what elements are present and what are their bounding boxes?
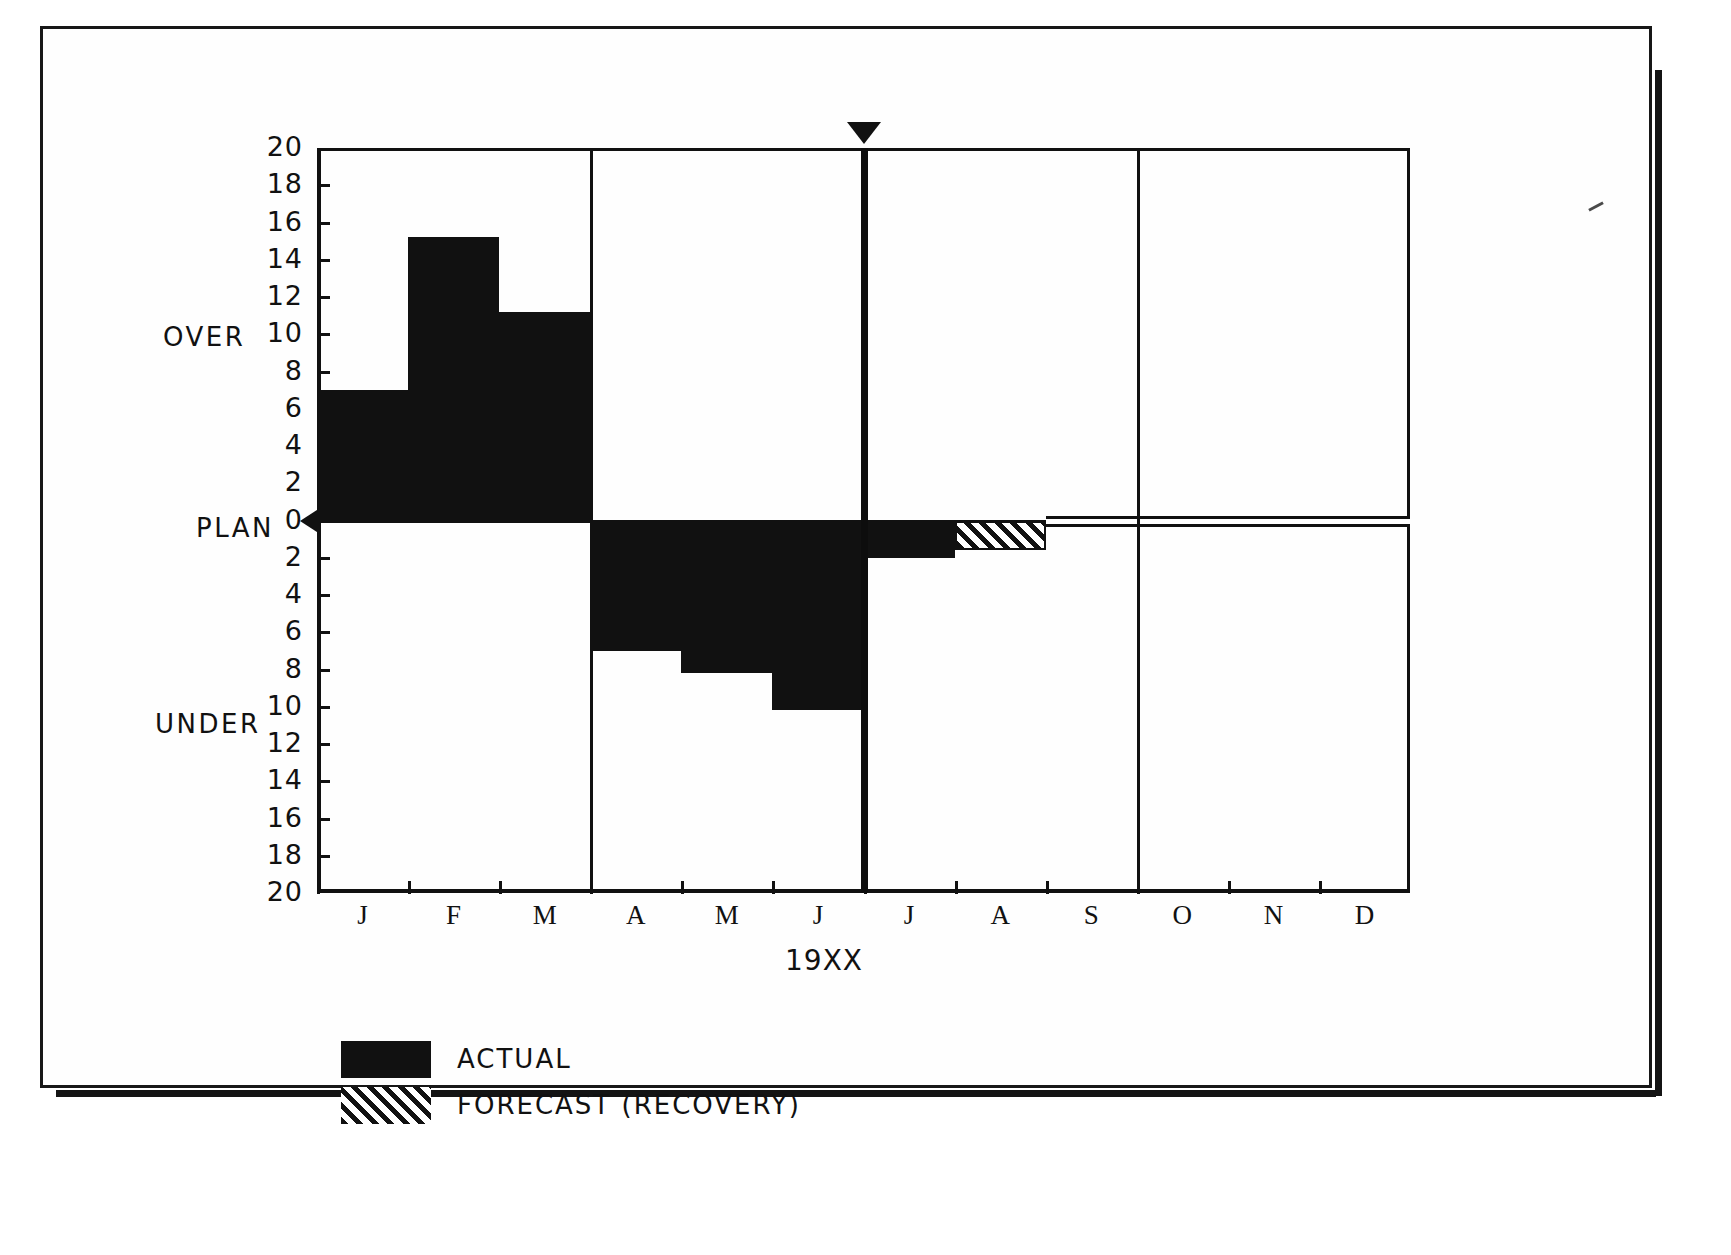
x-axis-category-label: S: [1061, 902, 1121, 929]
down-triangle-marker-icon: [847, 122, 881, 144]
x-axis-category-label: A: [606, 902, 666, 929]
sheet-edge-shadow-bottom: [56, 1090, 1656, 1097]
y-axis-tick: [317, 333, 330, 336]
x-axis-category-label: D: [1334, 902, 1394, 929]
bar-on-plan: [1228, 516, 1319, 527]
plan-pointer-icon: [300, 508, 320, 534]
x-axis-tick: [772, 881, 775, 894]
y-axis-tick: [317, 408, 330, 411]
y-axis-tick: [317, 780, 330, 783]
y-axis-tick-label: 14: [243, 245, 303, 272]
y-axis-tick-label: 16: [243, 804, 303, 831]
y-axis-tick-label: 18: [243, 841, 303, 868]
bar-actual: [590, 521, 681, 651]
x-axis-tick: [408, 881, 411, 894]
y-axis-tick-label: 4: [243, 580, 303, 607]
x-axis-category-label: J: [879, 902, 939, 929]
y-axis-tick-label: 10: [243, 692, 303, 719]
x-axis-category-label: F: [424, 902, 484, 929]
y-axis-tick-label: 14: [243, 766, 303, 793]
x-axis-tick: [1046, 881, 1049, 894]
y-axis-tick: [317, 371, 330, 374]
bar-actual: [681, 521, 772, 674]
y-axis-tick-label: 20: [243, 878, 303, 905]
x-axis-tick: [1228, 881, 1231, 894]
y-axis-tick: [317, 743, 330, 746]
bar-actual: [499, 312, 590, 521]
legend-item-label: FORECAST (RECOVERY): [457, 1090, 801, 1120]
x-axis-category-label: J: [788, 902, 848, 929]
hatch-swatch: [341, 1087, 431, 1124]
y-axis-tick-label: 20: [243, 133, 303, 160]
y-axis-tick: [317, 855, 330, 858]
y-axis-tick: [317, 557, 330, 560]
legend-item-label: ACTUAL: [457, 1044, 572, 1074]
y-axis-tick-label: 0: [243, 506, 303, 533]
y-axis-tick: [317, 482, 330, 485]
y-axis-tick-label: 4: [243, 431, 303, 458]
x-axis-category-label: O: [1152, 902, 1212, 929]
quarter-divider-line: [590, 148, 593, 893]
x-axis-tick: [499, 881, 502, 894]
y-axis-tick: [317, 296, 330, 299]
solid-swatch: [341, 1041, 431, 1078]
y-axis-tick: [317, 669, 330, 672]
y-axis-tick: [317, 706, 330, 709]
bar-actual: [864, 521, 955, 558]
y-axis-tick: [317, 631, 330, 634]
x-axis-tick: [317, 881, 320, 894]
legend-item: FORECAST (RECOVERY): [341, 1082, 801, 1128]
bar-on-plan: [1319, 516, 1410, 527]
x-axis-title: 19XX: [785, 944, 863, 977]
bar-forecast: [955, 521, 1046, 551]
y-axis-tick-label: 2: [243, 468, 303, 495]
y-axis-tick-label: 6: [243, 394, 303, 421]
x-axis-category-label: J: [333, 902, 393, 929]
y-axis-tick-label: 8: [243, 357, 303, 384]
bar-actual: [317, 390, 408, 520]
y-axis-tick-label: 8: [243, 655, 303, 682]
sheet-edge-shadow-right: [1655, 70, 1662, 1096]
y-axis-tick-label: 16: [243, 208, 303, 235]
y-axis-tick: [317, 445, 330, 448]
quarter-divider-line: [1137, 148, 1140, 893]
x-axis-tick: [681, 881, 684, 894]
bar-on-plan: [1137, 516, 1228, 527]
x-axis-category-label: M: [515, 902, 575, 929]
y-axis-tick: [317, 259, 330, 262]
x-axis-tick: [955, 881, 958, 894]
y-axis-tick: [317, 818, 330, 821]
y-axis-tick-label: 12: [243, 282, 303, 309]
y-axis-tick-label: 18: [243, 170, 303, 197]
bar-on-plan: [1046, 516, 1137, 527]
y-axis-tick-label: 10: [243, 319, 303, 346]
bar-actual: [408, 237, 499, 520]
y-axis-tick-label: 2: [243, 543, 303, 570]
current-period-line: [861, 148, 868, 893]
bar-actual: [772, 521, 863, 711]
x-axis-category-label: A: [970, 902, 1030, 929]
y-axis-tick-label: 12: [243, 729, 303, 756]
y-axis-tick-labels: 201816141210864202468101214161820: [233, 148, 303, 893]
x-axis-category-label: N: [1243, 902, 1303, 929]
x-axis-category-label: M: [697, 902, 757, 929]
y-axis-tick: [317, 222, 330, 225]
chart-legend: ACTUAL FORECAST (RECOVERY): [341, 1036, 801, 1128]
legend-item: ACTUAL: [341, 1036, 801, 1082]
y-axis-tick: [317, 594, 330, 597]
y-axis-tick-label: 6: [243, 617, 303, 644]
x-axis-tick: [1319, 881, 1322, 894]
y-axis-tick: [317, 184, 330, 187]
